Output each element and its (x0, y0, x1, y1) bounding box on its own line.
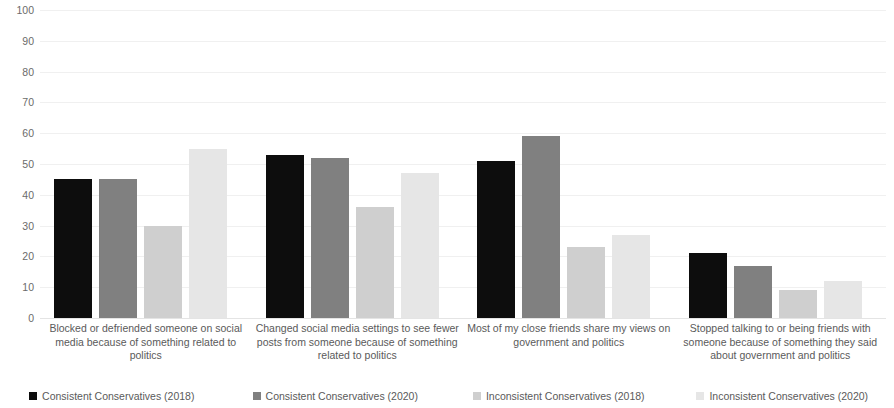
bar-slot (54, 10, 92, 318)
bar-slot (824, 10, 862, 318)
bar-group (463, 10, 675, 318)
bar (779, 290, 817, 318)
legend-swatch-icon (473, 392, 481, 400)
bar (522, 136, 560, 318)
bar-slot (612, 10, 650, 318)
bar-slot (734, 10, 772, 318)
y-axis-tick-label: 70 (0, 97, 34, 107)
category-labels: Blocked or defriended someone on social … (40, 322, 886, 380)
bar (356, 207, 394, 318)
bar-slot (99, 10, 137, 318)
bar (311, 158, 349, 318)
legend: Consistent Conservatives (2018)Consisten… (0, 386, 894, 406)
bar (144, 226, 182, 318)
bar (477, 161, 515, 318)
legend-item[interactable]: Inconsistent Conservatives (2020) (671, 390, 894, 402)
y-axis-tick-label: 50 (0, 159, 34, 169)
y-axis: 1009080706050403020100 (0, 10, 34, 318)
legend-swatch-icon (253, 392, 261, 400)
legend-label: Consistent Conservatives (2018) (42, 390, 194, 402)
legend-swatch-icon (29, 392, 37, 400)
y-axis-tick-label: 60 (0, 128, 34, 138)
bar-slot (401, 10, 439, 318)
y-axis-tick-label: 40 (0, 190, 34, 200)
category-label: Changed social media settings to see few… (252, 322, 464, 380)
bar (824, 281, 862, 318)
y-axis-tick-label: 30 (0, 221, 34, 231)
bar (54, 179, 92, 318)
legend-item[interactable]: Consistent Conservatives (2020) (224, 390, 448, 402)
bar (567, 247, 605, 318)
y-axis-tick-label: 100 (0, 5, 34, 15)
bar-slot (189, 10, 227, 318)
bar-group (40, 10, 252, 318)
y-axis-tick-label: 90 (0, 36, 34, 46)
category-label: Stopped talking to or being friends with… (675, 322, 887, 380)
bar (401, 173, 439, 318)
bar-slot (567, 10, 605, 318)
legend-label: Consistent Conservatives (2020) (266, 390, 418, 402)
legend-label: Inconsistent Conservatives (2018) (486, 390, 645, 402)
bar-slot (311, 10, 349, 318)
category-label: Most of my close friends share my views … (463, 322, 675, 380)
bar (189, 149, 227, 318)
legend-item[interactable]: Inconsistent Conservatives (2018) (447, 390, 671, 402)
bar-slot (477, 10, 515, 318)
y-axis-tick-label: 10 (0, 282, 34, 292)
y-axis-tick-label: 80 (0, 67, 34, 77)
bar-chart: 1009080706050403020100 Blocked or defrie… (0, 0, 894, 408)
y-axis-tick-label: 20 (0, 251, 34, 261)
bar (689, 253, 727, 318)
bar-groups (40, 10, 886, 318)
bar-slot (689, 10, 727, 318)
legend-swatch-icon (696, 392, 704, 400)
legend-item[interactable]: Consistent Conservatives (2018) (0, 390, 224, 402)
bar-slot (779, 10, 817, 318)
bar-slot (356, 10, 394, 318)
bar-slot (144, 10, 182, 318)
bar (734, 266, 772, 318)
bar-slot (266, 10, 304, 318)
bar (99, 179, 137, 318)
bar-group (675, 10, 887, 318)
gridline (40, 318, 886, 319)
y-axis-tick-label: 0 (0, 313, 34, 323)
bar-group (252, 10, 464, 318)
category-label: Blocked or defriended someone on social … (40, 322, 252, 380)
bar (266, 155, 304, 318)
legend-label: Inconsistent Conservatives (2020) (709, 390, 868, 402)
plot-area (40, 10, 886, 318)
bar-slot (522, 10, 560, 318)
bar (612, 235, 650, 318)
